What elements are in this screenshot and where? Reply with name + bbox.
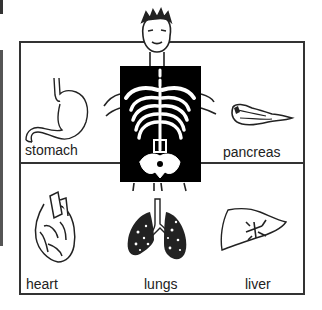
- pancreas-icon: [232, 104, 292, 124]
- stomach-icon: [26, 78, 88, 142]
- label-heart: heart: [26, 277, 58, 291]
- label-pancreas: pancreas: [223, 145, 281, 159]
- label-lungs: lungs: [144, 277, 177, 291]
- xray-boy-figure: [104, 9, 216, 191]
- label-liver: liver: [245, 277, 271, 291]
- lungs-icon: [128, 199, 187, 259]
- liver-icon: [221, 209, 286, 250]
- label-stomach: stomach: [25, 143, 78, 157]
- heart-icon: [35, 192, 74, 262]
- head-icon: [142, 9, 171, 66]
- legs-icon: [133, 183, 186, 191]
